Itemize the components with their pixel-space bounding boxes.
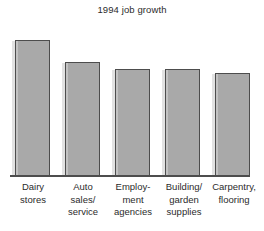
category-label: Dairy stores xyxy=(7,181,59,206)
bar-chart-figure: 1994 job growth 26% 22% 20% 20% 19% xyxy=(0,0,264,231)
category-label: Carpentry, flooring xyxy=(205,181,263,206)
category-label-line: service xyxy=(57,206,109,219)
category-label-line: Dairy xyxy=(7,181,59,194)
plot-area: 26% 22% 20% 20% 19% xyxy=(0,0,264,231)
category-label: Auto sales/ service xyxy=(57,181,109,219)
category-label-line: Auto xyxy=(57,181,109,194)
category-label-line: Carpentry, xyxy=(205,181,263,194)
category-label-line: stores xyxy=(7,194,59,207)
bar-rect xyxy=(165,69,200,176)
category-label-line: supplies xyxy=(155,206,213,219)
axis-baseline xyxy=(10,175,250,177)
category-label-line: flooring xyxy=(205,194,263,207)
bar-rect xyxy=(215,73,250,176)
bar-rect xyxy=(65,62,100,176)
bar-rect xyxy=(115,69,150,176)
category-label-line: agencies xyxy=(107,206,159,219)
category-label-line: ment xyxy=(107,194,159,207)
bar-rect xyxy=(15,40,50,176)
category-label-line: Employ- xyxy=(107,181,159,194)
category-label-line: sales/ xyxy=(57,194,109,207)
category-label: Employ- ment agencies xyxy=(107,181,159,219)
